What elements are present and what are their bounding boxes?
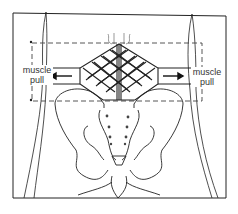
label-line-1: muscle [21,65,53,75]
label-line-2: pull [191,77,223,87]
left-muscle-pull-label: muscle pull [21,65,53,85]
right-muscle-pull-label: muscle pull [191,67,223,87]
left-flank [24,12,47,198]
label-line-2: pull [21,75,53,85]
right-flank [188,14,218,198]
label-line-1: muscle [191,67,223,77]
pelvis [55,89,183,198]
pelvis-mesh-diagram [0,0,238,214]
mesh [45,44,192,100]
